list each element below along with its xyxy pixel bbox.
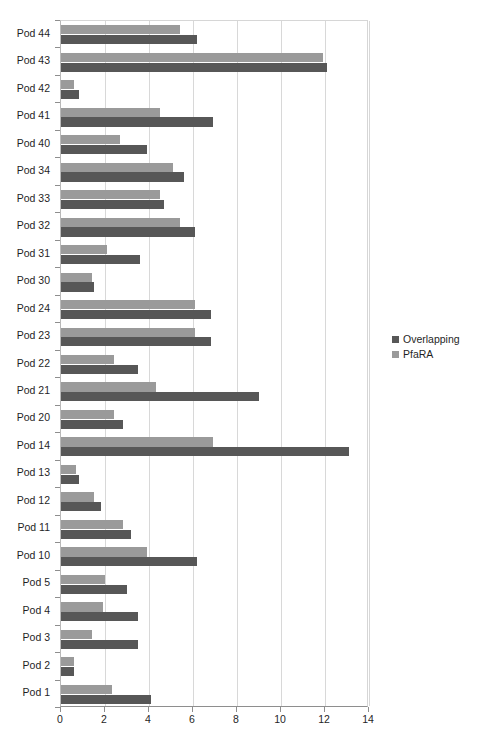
y-axis-tick — [55, 570, 60, 571]
y-axis-label: Pod 32 — [0, 220, 50, 231]
bar-rows — [61, 21, 367, 706]
bar-overlapping — [61, 337, 211, 346]
bar-row — [61, 241, 367, 268]
bar-row — [61, 653, 367, 680]
bar-row — [61, 21, 367, 48]
bar-overlapping — [61, 200, 164, 209]
y-axis-label: Pod 44 — [0, 28, 50, 39]
y-axis-label: Pod 3 — [0, 632, 50, 643]
y-axis-tick — [55, 377, 60, 378]
bar-overlapping — [61, 227, 195, 236]
bar-row — [61, 598, 367, 625]
bar-pfara — [61, 135, 120, 144]
bar-row — [61, 681, 367, 708]
bar-row — [61, 351, 367, 378]
bar-overlapping — [61, 282, 94, 291]
bar-pfara — [61, 382, 156, 391]
bar-pfara — [61, 547, 147, 556]
bar-row — [61, 378, 367, 405]
bar-row — [61, 76, 367, 103]
bar-overlapping — [61, 255, 140, 264]
bar-overlapping — [61, 585, 127, 594]
y-axis-label: Pod 43 — [0, 55, 50, 66]
bar-overlapping — [61, 420, 123, 429]
bar-pfara — [61, 492, 94, 501]
bar-row — [61, 186, 367, 213]
bar-overlapping — [61, 695, 151, 704]
y-axis-label: Pod 33 — [0, 193, 50, 204]
bar-overlapping — [61, 530, 131, 539]
bar-overlapping — [61, 667, 74, 676]
y-axis-tick — [55, 75, 60, 76]
bar-pfara — [61, 245, 107, 254]
bar-overlapping — [61, 640, 138, 649]
y-axis-tick — [55, 350, 60, 351]
legend-swatch-icon — [392, 336, 399, 343]
legend-item: Overlapping — [392, 332, 460, 346]
x-axis-label: 12 — [309, 713, 339, 725]
bar-pfara — [61, 575, 105, 584]
bar-row — [61, 103, 367, 130]
y-axis-label: Pod 20 — [0, 412, 50, 423]
y-axis-label: Pod 11 — [0, 522, 50, 533]
bar-row — [61, 626, 367, 653]
bar-row — [61, 213, 367, 240]
bar-row — [61, 488, 367, 515]
bar-overlapping — [61, 365, 138, 374]
y-axis-label: Pod 31 — [0, 248, 50, 259]
bar-row — [61, 131, 367, 158]
y-axis-tick — [55, 652, 60, 653]
bar-pfara — [61, 602, 103, 611]
y-axis-label: Pod 12 — [0, 495, 50, 506]
bar-row — [61, 433, 367, 460]
bar-pfara — [61, 657, 74, 666]
bar-overlapping — [61, 117, 213, 126]
y-axis-tick — [55, 102, 60, 103]
plot-area — [60, 20, 368, 707]
bar-pfara — [61, 630, 92, 639]
x-axis-label: 8 — [221, 713, 251, 725]
y-axis-label: Pod 10 — [0, 550, 50, 561]
x-axis-label: 0 — [45, 713, 75, 725]
x-axis-tick — [104, 707, 105, 712]
legend-item: PfaRA — [392, 347, 460, 361]
bar-row — [61, 571, 367, 598]
x-axis-label: 4 — [133, 713, 163, 725]
x-axis-label: 14 — [353, 713, 383, 725]
y-axis-tick — [55, 47, 60, 48]
legend-swatch-icon — [392, 351, 399, 358]
bar-overlapping — [61, 502, 101, 511]
bar-pfara — [61, 53, 323, 62]
y-axis-label: Pod 42 — [0, 83, 50, 94]
y-axis-label: Pod 5 — [0, 577, 50, 588]
bar-row — [61, 461, 367, 488]
bar-pfara — [61, 437, 213, 446]
bar-row — [61, 296, 367, 323]
x-axis-label: 10 — [265, 713, 295, 725]
y-axis-label: Pod 14 — [0, 440, 50, 451]
x-axis-tick — [236, 707, 237, 712]
y-axis-tick — [55, 295, 60, 296]
bar-pfara — [61, 218, 180, 227]
bar-overlapping — [61, 392, 259, 401]
y-axis-tick — [55, 405, 60, 406]
y-axis-tick — [55, 322, 60, 323]
y-axis-label: Pod 21 — [0, 385, 50, 396]
x-axis-tick — [368, 707, 369, 712]
bar-overlapping — [61, 90, 79, 99]
bar-row — [61, 158, 367, 185]
bar-pfara — [61, 80, 74, 89]
y-axis-tick — [55, 212, 60, 213]
bar-pfara — [61, 410, 114, 419]
y-axis-tick — [55, 20, 60, 21]
y-axis-label: Pod 41 — [0, 110, 50, 121]
x-axis-tick — [192, 707, 193, 712]
y-axis-tick — [55, 625, 60, 626]
y-axis-tick — [55, 432, 60, 433]
y-axis-label: Pod 34 — [0, 165, 50, 176]
x-axis-tick — [148, 707, 149, 712]
bar-row — [61, 48, 367, 75]
y-axis-label: Pod 2 — [0, 660, 50, 671]
bar-overlapping — [61, 63, 327, 72]
legend-label: Overlapping — [403, 332, 460, 346]
